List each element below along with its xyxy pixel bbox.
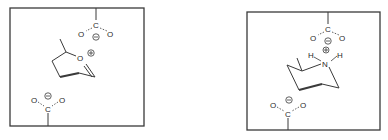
nitrogen-label: N [322, 60, 328, 69]
left-panel: C O O O [10, 8, 144, 126]
left-bottom-carboxylate: O O C [31, 93, 65, 126]
right-panel-frame [247, 12, 380, 130]
right-top-carboxylate: C O O [310, 12, 345, 44]
oxygen-label: O [310, 34, 316, 43]
carbon-label: C [45, 105, 51, 114]
diagram-canvas: C O O O [0, 0, 388, 140]
oxygen-label: O [78, 30, 84, 39]
hydrogen-label: H [308, 51, 314, 60]
right-panel: C O O H H N O [247, 12, 380, 130]
oxygen-label: O [107, 30, 113, 39]
oxygen-label: O [339, 34, 345, 43]
left-cation-ring [52, 39, 95, 77]
carbon-label: C [93, 21, 99, 30]
oxygen-label: O [300, 101, 306, 110]
oxygen-label: O [31, 96, 37, 105]
right-cation-chair [287, 58, 339, 90]
oxygen-label: O [270, 101, 276, 110]
carbon-label: C [285, 110, 291, 119]
oxygen-label: O [59, 96, 65, 105]
left-panel-frame [10, 8, 144, 126]
right-bottom-carboxylate: O O C [270, 97, 306, 130]
left-top-carboxylate: C O O [78, 8, 113, 40]
hydrogen-label: H [337, 51, 343, 60]
ring-oxygen-label: O [77, 54, 83, 63]
carbon-label: C [325, 25, 331, 34]
